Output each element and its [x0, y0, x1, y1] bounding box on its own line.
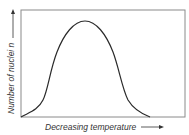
x-axis-label: Decreasing temperature: [45, 122, 136, 132]
y-axis-arrow: [11, 9, 15, 38]
nuclei-curve: [21, 21, 150, 117]
x-axis-arrow: [141, 125, 164, 129]
chart: Number of nuclei n Decreasing temperatur…: [0, 0, 189, 135]
plot-frame: [21, 10, 185, 117]
y-axis-label: Number of nuclei n: [6, 42, 16, 114]
